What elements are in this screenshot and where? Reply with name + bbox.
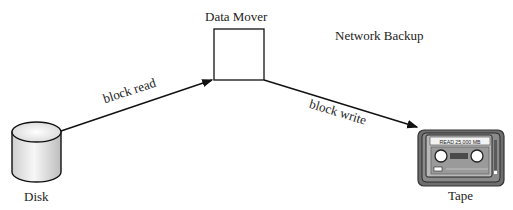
- diagram-title: Network Backup: [335, 28, 423, 44]
- diagram-canvas: READ 25,000 MB: [0, 0, 513, 210]
- disk-icon[interactable]: [12, 122, 61, 182]
- data-mover-box[interactable]: [214, 29, 264, 80]
- disk-label: Disk: [24, 189, 49, 205]
- data-mover-label: Data Mover: [205, 9, 267, 25]
- tape-label: Tape: [448, 188, 473, 204]
- tape-icon[interactable]: READ 25,000 MB: [418, 130, 504, 186]
- tape-display-text: READ 25,000 MB: [440, 139, 481, 145]
